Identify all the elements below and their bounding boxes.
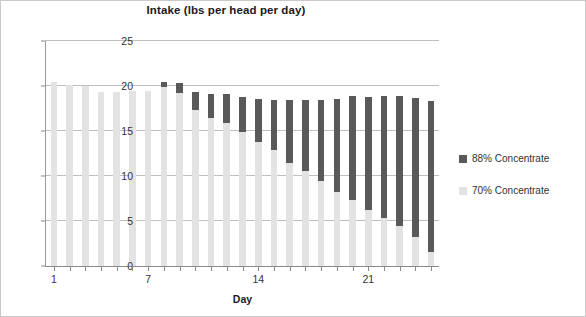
bar-segment-88-concentrate [223, 94, 230, 123]
x-axis-title: Day [46, 293, 439, 305]
x-axis-tick-mark [243, 266, 244, 271]
bar-segment-70-concentrate [396, 226, 403, 267]
bar-group [98, 41, 105, 266]
bar-group [145, 41, 152, 266]
x-axis-tick-mark [227, 266, 228, 271]
legend-item[interactable]: 70% Concentrate [459, 185, 549, 196]
bar-segment-70-concentrate [176, 93, 183, 266]
y-axis-tick-mark [41, 221, 46, 222]
chart-legend: 88% Concentrate70% Concentrate [459, 153, 549, 217]
x-axis-tick-mark [70, 266, 71, 271]
bar-group [223, 41, 230, 266]
x-axis-tick-label: 21 [362, 273, 374, 285]
x-axis-tick-mark [353, 266, 354, 271]
bar-segment-88-concentrate [381, 96, 388, 218]
bar-group [255, 41, 262, 266]
bar-segment-88-concentrate [255, 99, 262, 142]
bar-segment-70-concentrate [82, 86, 89, 266]
bar-segment-88-concentrate [239, 97, 246, 132]
bar-series-group [46, 41, 439, 266]
y-axis-tick-label: 20 [93, 80, 133, 92]
y-axis-tick-label: 5 [93, 215, 133, 227]
legend-item[interactable]: 88% Concentrate [459, 153, 549, 164]
bar-group [302, 41, 309, 266]
bar-segment-70-concentrate [145, 91, 152, 266]
x-axis-tick-mark [85, 266, 86, 271]
bar-group [161, 41, 168, 266]
bar-segment-70-concentrate [302, 171, 309, 266]
bar-segment-70-concentrate [349, 200, 356, 266]
x-axis-tick-mark [258, 266, 259, 271]
bar-segment-88-concentrate [428, 101, 435, 251]
bar-segment-88-concentrate [192, 92, 199, 110]
bar-segment-70-concentrate [334, 192, 341, 266]
bar-segment-88-concentrate [334, 99, 341, 193]
x-axis-tick-mark [54, 266, 55, 271]
bar-group [192, 41, 199, 266]
bar-segment-70-concentrate [365, 210, 372, 266]
bar-segment-70-concentrate [318, 181, 325, 266]
plot-area [46, 41, 439, 266]
y-axis-tick-mark [41, 266, 46, 267]
bar-group [208, 41, 215, 266]
bar-segment-88-concentrate [286, 100, 293, 163]
bar-segment-70-concentrate [51, 82, 58, 267]
y-axis-tick-mark [41, 86, 46, 87]
y-axis-tick-label: 25 [93, 35, 133, 47]
y-axis-tick-mark [41, 41, 46, 42]
bar-group [51, 41, 58, 266]
bar-group [318, 41, 325, 266]
legend-swatch-icon [459, 187, 467, 195]
y-axis-tick-mark [41, 131, 46, 132]
bar-segment-70-concentrate [239, 132, 246, 266]
bar-segment-88-concentrate [176, 83, 183, 93]
x-axis-tick-label: 14 [252, 273, 264, 285]
x-axis-tick-mark [384, 266, 385, 271]
x-axis-tick-mark [180, 266, 181, 271]
x-axis-tick-label: 7 [145, 273, 151, 285]
x-axis-tick-mark [415, 266, 416, 271]
bar-segment-88-concentrate [271, 100, 278, 150]
bar-segment-70-concentrate [223, 123, 230, 266]
x-axis-tick-mark [195, 266, 196, 271]
bar-segment-88-concentrate [302, 100, 309, 171]
bar-segment-70-concentrate [428, 252, 435, 266]
bar-segment-70-concentrate [286, 163, 293, 266]
x-axis-tick-label: 1 [51, 273, 57, 285]
bar-group [412, 41, 419, 266]
x-axis-tick-mark [148, 266, 149, 271]
bar-segment-70-concentrate [412, 237, 419, 266]
bar-segment-70-concentrate [161, 87, 168, 266]
bar-segment-88-concentrate [349, 96, 356, 200]
chart-title: Intake (lbs per head per day) [1, 4, 451, 16]
x-axis-tick-mark [400, 266, 401, 271]
bar-segment-70-concentrate [208, 118, 215, 267]
x-axis-tick-mark [321, 266, 322, 271]
y-axis-tick-mark [41, 176, 46, 177]
bar-segment-70-concentrate [66, 85, 73, 266]
bar-group [334, 41, 341, 266]
bar-segment-70-concentrate [192, 110, 199, 266]
y-axis-tick-label: 10 [93, 170, 133, 182]
bar-group [271, 41, 278, 266]
legend-item-label: 70% Concentrate [472, 185, 549, 196]
bar-group [113, 41, 120, 266]
bar-group [66, 41, 73, 266]
x-axis-tick-mark [305, 266, 306, 271]
x-axis-tick-mark [211, 266, 212, 271]
bar-group [239, 41, 246, 266]
chart-container: Intake (lbs per head per day) 0510152025… [0, 0, 586, 317]
bar-group [82, 41, 89, 266]
bar-group [286, 41, 293, 266]
bar-segment-70-concentrate [381, 218, 388, 266]
bar-segment-88-concentrate [208, 94, 215, 117]
x-axis-tick-mark [132, 266, 133, 271]
bar-group [365, 41, 372, 266]
x-axis-tick-mark [101, 266, 102, 271]
legend-item-label: 88% Concentrate [472, 153, 549, 164]
bar-segment-70-concentrate [255, 142, 262, 266]
x-axis-tick-mark [337, 266, 338, 271]
bar-group [381, 41, 388, 266]
bar-segment-88-concentrate [365, 97, 372, 210]
bar-group [129, 41, 136, 266]
